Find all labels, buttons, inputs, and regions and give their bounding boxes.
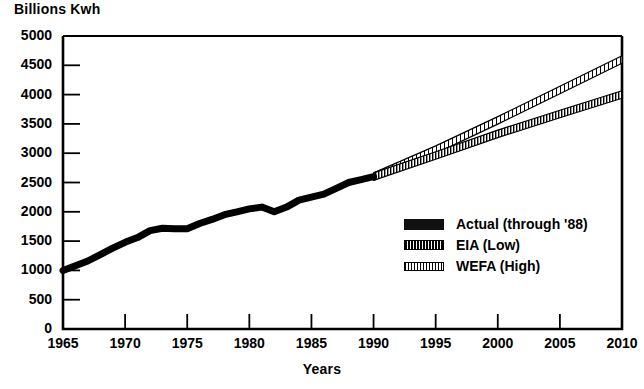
y-tick-label: 3500	[0, 115, 52, 131]
legend-label: Actual (through '88)	[456, 217, 588, 231]
y-tick-label: 1000	[0, 261, 52, 277]
legend-item: Actual (through '88)	[404, 214, 624, 234]
y-tick-label: 4000	[0, 86, 52, 102]
legend-item: EIA (Low)	[404, 235, 624, 255]
y-tick-label: 4500	[0, 56, 52, 72]
x-tick-label: 2000	[468, 335, 528, 351]
y-tick-label: 0	[0, 320, 52, 336]
y-tick-label: 2000	[0, 203, 52, 219]
legend-swatch-icon	[404, 219, 444, 230]
legend-swatch-icon	[404, 262, 444, 271]
x-tick-label: 1990	[344, 335, 404, 351]
plot-area	[0, 0, 644, 389]
x-tick-label: 1965	[33, 335, 93, 351]
y-tick-label: 5000	[0, 27, 52, 43]
x-tick-label: 1995	[406, 335, 466, 351]
x-tick-label: 1980	[219, 335, 279, 351]
legend-item: WEFA (High)	[404, 256, 624, 276]
x-tick-label: 2005	[530, 335, 590, 351]
x-tick-label: 1975	[157, 335, 217, 351]
y-tick-label: 1500	[0, 232, 52, 248]
x-tick-label: 2010	[592, 335, 644, 351]
y-tick-label: 500	[0, 291, 52, 307]
y-tick-label: 3000	[0, 144, 52, 160]
x-tick-label: 1985	[281, 335, 341, 351]
chart-legend: Actual (through '88)EIA (Low)WEFA (High)	[404, 214, 624, 277]
y-tick-label: 2500	[0, 174, 52, 190]
legend-label: EIA (Low)	[456, 238, 520, 252]
legend-label: WEFA (High)	[456, 259, 540, 273]
chart-container: Billions Kwh Years 050010001500200025003…	[0, 0, 644, 389]
legend-swatch-icon	[404, 240, 444, 250]
x-tick-label: 1970	[95, 335, 155, 351]
